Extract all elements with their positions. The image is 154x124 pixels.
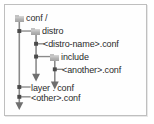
tree-node-other-conf[interactable]: <other>.conf	[31, 94, 80, 103]
tree-node-layer-conf[interactable]: layer . conf	[31, 84, 74, 93]
tree-node-label: layer . conf	[31, 83, 74, 93]
folder-icon	[31, 28, 40, 35]
tree-node-another-conf[interactable]: <another>.conf	[62, 66, 121, 75]
folder-icon	[50, 54, 59, 61]
tree-node-conf-root[interactable]: conf /	[15, 14, 47, 23]
tree-node-include[interactable]: include	[50, 53, 89, 62]
tree-node-distro-name-conf[interactable]: <distro-name>.conf	[43, 40, 119, 49]
tree-node-label: conf /	[26, 13, 47, 23]
diagram-frame: conf / distro <distro-name>.conf include…	[4, 4, 147, 116]
tree-node-label: <other>.conf	[31, 93, 80, 103]
tree-node-label: <distro-name>.conf	[43, 39, 119, 49]
tree-node-label: include	[61, 52, 89, 62]
folder-icon	[15, 15, 24, 22]
tree-node-distro[interactable]: distro	[31, 27, 63, 36]
tree-node-label: <another>.conf	[62, 65, 121, 75]
tree-node-label: distro	[42, 26, 63, 36]
